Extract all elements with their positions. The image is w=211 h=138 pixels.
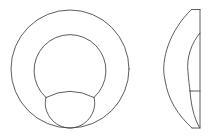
side-inner-arc-upper [188, 33, 200, 91]
lens-diagram [0, 0, 211, 138]
diagram-canvas [0, 0, 211, 138]
side-inner-arc-lower [190, 91, 200, 128]
outer-circle [11, 10, 129, 128]
lower-segment-top-arc [46, 91, 94, 97]
lower-segment-bottom-arc [45, 98, 95, 129]
front-view [11, 10, 129, 128]
inner-circle-arc [34, 35, 106, 98]
side-view [164, 10, 200, 129]
